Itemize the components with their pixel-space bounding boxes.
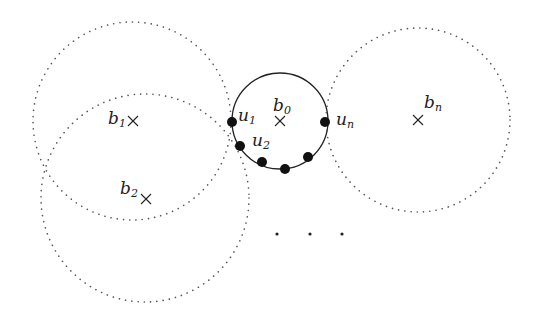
ellipsis-dot-1 <box>308 232 311 235</box>
label-u1: u1 <box>238 105 256 127</box>
node-u3 <box>257 157 267 167</box>
node-u4 <box>280 164 290 174</box>
label-bn: bn <box>424 92 442 114</box>
cross-icon-b1 <box>128 116 138 126</box>
center-markers-group <box>128 115 423 204</box>
node-u2 <box>235 141 245 151</box>
ellipsis-dot-2 <box>340 232 343 235</box>
label-u2: u2 <box>252 130 270 152</box>
cross-icon-bn <box>413 115 423 125</box>
node-u5 <box>303 152 313 162</box>
label-un: un <box>336 109 354 131</box>
nodes-group <box>227 117 330 174</box>
node-un <box>320 117 330 127</box>
diagram-canvas: b1 b2 b0 bn u1 u2 un <box>0 0 538 315</box>
ellipsis-dot-0 <box>275 232 278 235</box>
ellipsis-dots <box>275 232 343 235</box>
label-b1: b1 <box>108 108 126 130</box>
node-u1 <box>227 117 237 127</box>
label-b2: b2 <box>120 178 138 200</box>
cross-icon-b0 <box>275 116 285 126</box>
label-b0: b0 <box>273 95 291 117</box>
circles-group <box>33 22 510 302</box>
cross-icon-b2 <box>141 194 151 204</box>
